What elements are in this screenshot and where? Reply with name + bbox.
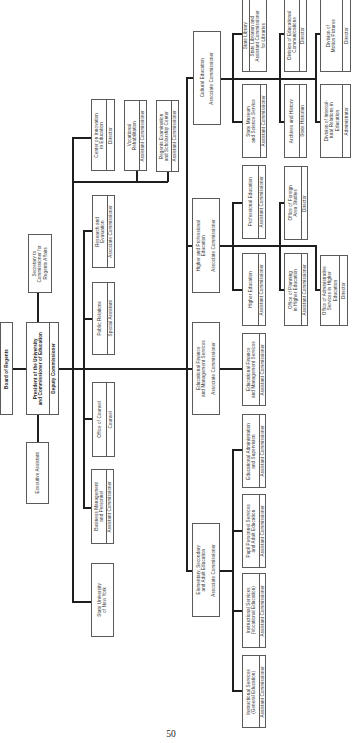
higher-professional-education-box: Higher and Professional Education Associ…	[192, 198, 220, 293]
box-section: Assistant Commissioner	[258, 166, 265, 238]
executive-assistant-box: Executive Assistant	[26, 442, 49, 504]
connector-line	[232, 690, 242, 692]
unit-title: Assistant Commissioner	[261, 95, 266, 146]
division-title: Associate Commissioner	[209, 52, 214, 105]
connector-line	[315, 245, 317, 290]
unit-title: Assistant Commissioner	[260, 505, 265, 556]
division-title: Associate Commissioner	[211, 544, 216, 597]
box-section: Public Relations	[93, 283, 107, 354]
box-section: Division of Intercul- tural Relations in…	[321, 85, 342, 157]
connector-line	[83, 230, 85, 508]
box-section: Division of Educational Communications	[285, 0, 299, 71]
box-section: Higher Education	[243, 254, 258, 325]
box-section: Office of Planning in Higher Education	[285, 254, 301, 325]
connector-line	[37, 293, 39, 322]
box-section: Regents Examination and Scholarship Cent…	[157, 101, 171, 171]
box-section: Assistant Commissioner	[259, 334, 265, 405]
connector-line	[83, 318, 92, 320]
box-section: Assistant Commissioner	[259, 656, 265, 727]
box-section: Director	[299, 0, 306, 71]
box-section: State University of New York	[92, 564, 113, 636]
division-name: Educational Finance and Management Servi…	[196, 340, 207, 397]
unit-title: Special Assistant	[108, 300, 113, 336]
connector-line	[83, 507, 91, 509]
unit-title: Director	[108, 127, 113, 144]
unit-name: Office of Foreign Area Studies	[288, 185, 299, 221]
box-section: Educational Finance and Management Servi…	[243, 334, 259, 405]
page-number: 50	[164, 729, 178, 739]
box-section: Assistant Commissioner	[171, 101, 178, 171]
division-title: Associate Commissioner	[211, 219, 216, 272]
box-section: Cultural Education Associate Commissione…	[194, 32, 220, 124]
connector-line	[186, 77, 188, 571]
box-section: Assistant Commissioner	[259, 574, 265, 647]
unit-name: Office of Administrative Services in Hig…	[322, 266, 338, 315]
connector-line	[279, 202, 281, 290]
state-museum-box: State Museum and Science Service Assista…	[242, 84, 267, 158]
public-relations-box: Public Relations Special Assistant	[92, 282, 115, 355]
box-section: Business Management and Personnel	[92, 470, 106, 543]
unit-title: State Historian	[300, 105, 305, 137]
unit-title: Associate Commissioner	[108, 205, 113, 258]
box-section: Higher and Professional Education Associ…	[193, 199, 219, 292]
intercultural-relations-box: Division of Intercul- tural Relations in…	[320, 84, 351, 158]
box-section: Secretary to Commissioner for Regents Af…	[29, 235, 51, 292]
box-section: Director	[301, 167, 307, 239]
box-section: Division of Motion Pictures	[321, 0, 342, 71]
connector-line	[232, 530, 242, 532]
connector-line	[220, 368, 242, 370]
president-name: President of the University and Commissi…	[33, 332, 44, 405]
connector-line	[186, 77, 193, 79]
box-section: Elementary, Secondary and Adult Educatio…	[193, 524, 219, 616]
box-section: Director	[106, 100, 114, 170]
box-section: State Historian	[299, 85, 306, 157]
unit-name: Business Management and Personnel	[94, 482, 105, 531]
connector-line	[232, 202, 234, 290]
connector-line	[220, 570, 232, 572]
archives-history-box: Archives and History State Historian	[284, 84, 307, 158]
connector-line	[72, 137, 91, 139]
box-section: Assistant Commissioner	[258, 254, 265, 325]
instructional-vocational-box: Instructional Services (Vocational Educa…	[242, 573, 266, 648]
box-section: Assistant Commissioner	[106, 470, 113, 543]
unit-title: Assistant Commissioner	[140, 110, 145, 161]
state-library-box: State Library State Librarian and Assist…	[242, 0, 267, 72]
unit-name: Office of Counsel	[97, 401, 102, 438]
connector-line	[232, 289, 242, 291]
unit-name: State Museum and Science Service	[246, 99, 257, 143]
center-on-innovation-box: Center on Innovation in Education Direct…	[91, 99, 115, 171]
unit-title: Assistant Commissioner	[259, 264, 264, 315]
unit-name: Research and Evaluation	[95, 217, 106, 247]
box-section: Special Assistant	[107, 283, 114, 354]
unit-title: Assistant Commissioner	[260, 425, 265, 476]
connector-line	[72, 181, 168, 183]
connector-line	[72, 137, 74, 602]
box-section: Assistant Commissioner	[259, 495, 265, 567]
unit-title: Assistant Commissioner	[172, 110, 177, 161]
secretary-label: Secretary to Commissioner for Regents Af…	[32, 245, 48, 283]
unit-title: Director	[344, 27, 349, 44]
business-management-box: Business Management and Personnel Assist…	[91, 469, 114, 544]
planning-higher-education-box: Office of Planning in Higher Education A…	[284, 253, 308, 326]
unit-name: Office of Planning in Higher Education	[288, 269, 299, 311]
president-box: President of the University and Commissi…	[26, 322, 59, 415]
box-section: Administrator	[342, 85, 350, 157]
connector-line	[13, 368, 26, 370]
connector-line	[232, 202, 242, 204]
connector-line	[315, 33, 317, 122]
box-section: Instructional Services (General Educatio…	[243, 656, 259, 727]
unit-name: Pupil Personnel Services and Adult Educa…	[246, 504, 257, 557]
unit-title: Director	[341, 282, 346, 299]
box-section: Executive Assistant	[27, 443, 48, 503]
unit-name: Educational Administration and Supervisi…	[246, 423, 257, 480]
box-section: President of the University and Commissi…	[27, 323, 49, 414]
box-section: Instructional Services (Vocational Educa…	[243, 574, 259, 647]
box-section: Board of Regents	[1, 323, 12, 414]
division-name: Cultural Education	[200, 58, 205, 97]
connector-line	[232, 449, 242, 451]
box-section: Archives and History	[285, 85, 299, 157]
unit-name: State University of New York	[97, 583, 108, 617]
box-section: Educational Administration and Supervisi…	[243, 415, 259, 487]
unit-name: Archives and History	[289, 99, 294, 143]
unit-name: Instructional Services (General Educatio…	[246, 669, 257, 715]
